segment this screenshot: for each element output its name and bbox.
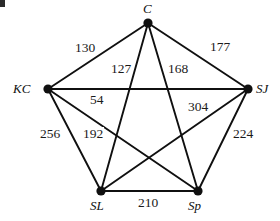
graph-vertex-sl xyxy=(96,186,105,195)
vertex-label-sj: SJ xyxy=(256,82,268,95)
graph-vertex-sj xyxy=(243,84,252,93)
edge-weight-c-sl: 127 xyxy=(110,62,132,76)
edge-weight-sj-sl: 304 xyxy=(187,100,209,114)
graph-vertex-sp xyxy=(193,186,202,195)
edge-weight-sl-sp: 210 xyxy=(137,196,159,210)
vertex-label-sp: Sp xyxy=(188,199,201,212)
graph-vertex-kc xyxy=(43,84,52,93)
edge-weight-kc-sl: 256 xyxy=(39,127,61,141)
edge-weight-c-kc: 130 xyxy=(74,41,96,55)
graph-edge-c-sj xyxy=(148,23,248,89)
weighted-graph-figure: CKCSJSLSp 13017712716854256192304224210 xyxy=(0,0,280,221)
vertex-label-sl: SL xyxy=(90,199,104,212)
vertex-label-kc: KC xyxy=(13,82,30,95)
graph-edge-c-sl xyxy=(101,23,148,191)
edge-weight-kc-sj: 54 xyxy=(89,93,105,107)
graph-canvas xyxy=(0,0,280,221)
edge-weight-c-sp: 168 xyxy=(167,62,189,76)
edge-weight-kc-sp: 192 xyxy=(82,127,104,141)
edge-weight-sj-sp: 224 xyxy=(232,127,254,141)
vertex-label-c: C xyxy=(143,2,152,15)
graph-vertex-c xyxy=(143,18,152,27)
edge-weight-c-sj: 177 xyxy=(209,40,231,54)
